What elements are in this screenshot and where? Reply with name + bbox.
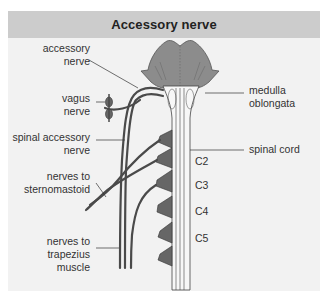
label-spinal-cord: spinal cord: [249, 143, 300, 156]
label-line: muscle: [47, 261, 90, 274]
label-segment-c2: C2: [195, 155, 208, 168]
label-line: spinal accessory: [12, 131, 90, 144]
label-nerves-to-sternomastoid: nerves to sternomastoid: [24, 170, 90, 196]
label-line: nerve: [43, 55, 90, 68]
label-line: oblongata: [249, 97, 295, 110]
accessory-nerve-paths: [86, 88, 163, 268]
label-nerves-to-trapezius: nerves to trapezius muscle: [47, 235, 90, 274]
label-medulla-oblongata: medulla oblongata: [249, 84, 295, 110]
label-segment-c4: C4: [195, 205, 208, 218]
label-accessory-nerve: accessory nerve: [43, 42, 90, 68]
label-line: nerves to: [47, 235, 90, 248]
label-segment-c3: C3: [195, 179, 208, 192]
label-line: nerves to: [24, 170, 90, 183]
label-segment-c5: C5: [195, 232, 208, 245]
label-line: sternomastoid: [24, 183, 90, 196]
label-line: vagus: [62, 92, 90, 105]
spinal-roots: [156, 130, 172, 266]
label-line: accessory: [43, 42, 90, 55]
label-line: nerve: [62, 105, 90, 118]
label-vagus-nerve: vagus nerve: [62, 92, 90, 118]
label-spinal-accessory-nerve: spinal accessory nerve: [12, 131, 90, 157]
label-line: medulla: [249, 84, 295, 97]
brainstem-shape: [141, 40, 219, 88]
label-line: nerve: [12, 144, 90, 157]
label-line: trapezius: [47, 248, 90, 261]
